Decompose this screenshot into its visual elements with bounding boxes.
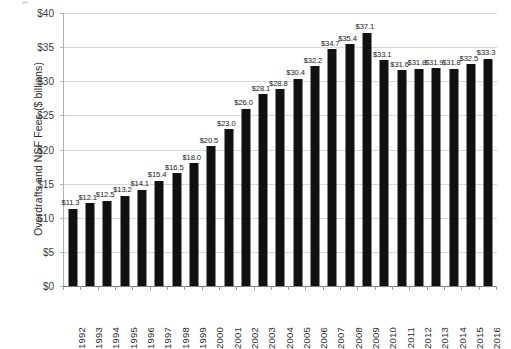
x-tick-label: 2009 (370, 327, 381, 349)
x-tick-mark (254, 286, 255, 290)
bar[interactable] (380, 60, 389, 286)
x-tick-label: 2003 (266, 327, 277, 349)
bar[interactable] (189, 163, 198, 286)
bar[interactable] (415, 69, 424, 286)
bar[interactable] (449, 69, 458, 286)
bar[interactable] (432, 68, 441, 286)
plot-area: $11.3$12.1$12.5$13.2$14.1$15.4$16.5$18.0… (63, 13, 497, 287)
y-tick-label: $15 (37, 178, 54, 189)
x-tick-label: 2000 (214, 327, 225, 349)
bar[interactable] (345, 44, 354, 286)
bar-value-label: $31.6 (390, 60, 409, 69)
bar-value-label: $13.2 (113, 185, 132, 194)
bar[interactable] (311, 66, 320, 286)
bar[interactable] (467, 64, 476, 286)
x-tick-mark (409, 286, 410, 290)
bar-value-label: $35.4 (338, 34, 357, 43)
x-tick-label: 2013 (439, 327, 450, 349)
bar-group: $31.6 (393, 13, 410, 286)
bar[interactable] (224, 129, 233, 286)
bar-group: $20.5 (203, 13, 220, 286)
y-tick-label: $40 (37, 8, 54, 19)
x-tick-mark (288, 286, 289, 290)
bar-value-label: $12.1 (78, 193, 97, 202)
x-tick-mark (375, 286, 376, 290)
x-tick-label: 2011 (405, 327, 416, 348)
bar[interactable] (484, 59, 493, 286)
y-tick-label: $0 (43, 281, 54, 292)
bar-group: $28.1 (255, 13, 272, 286)
bar[interactable] (120, 196, 129, 286)
bar-group: $34.7 (324, 13, 341, 286)
bar-group: $11.3 (64, 13, 81, 286)
bar-group: $35.4 (341, 13, 358, 286)
x-tick-label: 2001 (232, 327, 243, 349)
x-tick-mark (479, 286, 480, 290)
bar-group: $31.9 (428, 13, 445, 286)
x-tick-label: 1998 (180, 327, 191, 349)
x-tick-mark (305, 286, 306, 290)
x-tick-mark (496, 286, 497, 290)
bar-value-label: $20.5 (200, 136, 219, 145)
y-tick-label: $5 (43, 246, 54, 257)
bar-group: $14.1 (133, 13, 150, 286)
bar[interactable] (68, 209, 77, 286)
bar[interactable] (103, 201, 112, 286)
x-tick-label: 2005 (301, 327, 312, 349)
bar-value-label: $28.1 (252, 84, 271, 93)
x-tick-label: 2012 (422, 327, 433, 349)
bar-value-label: $32.5 (460, 54, 479, 63)
x-tick-label: 1999 (197, 327, 208, 349)
x-tick-label: 1993 (93, 327, 104, 349)
x-tick-mark (184, 286, 185, 290)
x-tick-mark (236, 286, 237, 290)
x-tick-label: 2006 (318, 327, 329, 349)
bar[interactable] (207, 146, 216, 286)
bar-group: $16.5 (168, 13, 185, 286)
x-tick-mark (132, 286, 133, 290)
y-tick-label: $25 (37, 110, 54, 121)
x-tick-mark (357, 286, 358, 290)
bar-value-label: $31.8 (408, 58, 427, 67)
bar-group: $33.3 (480, 13, 497, 286)
bar-group: $13.2 (116, 13, 133, 286)
x-tick-mark (427, 286, 428, 290)
bar[interactable] (328, 49, 337, 286)
x-tick-mark (63, 286, 64, 290)
x-tick-mark (219, 286, 220, 290)
bar[interactable] (172, 173, 181, 286)
bar[interactable] (397, 70, 406, 286)
bar[interactable] (293, 79, 302, 286)
bar-group: $28.8 (272, 13, 289, 286)
bar[interactable] (137, 190, 146, 286)
x-axis-tick-labels: 1992199319941995199619971998199920002001… (63, 291, 496, 331)
bar-group: $31.8 (410, 13, 427, 286)
bar[interactable] (259, 94, 268, 286)
bar[interactable] (276, 89, 285, 286)
bar[interactable] (363, 33, 372, 286)
bar-value-label: $15.4 (148, 170, 167, 179)
x-tick-mark (167, 286, 168, 290)
bar[interactable] (241, 109, 250, 286)
bar-group: $33.1 (376, 13, 393, 286)
x-tick-mark (202, 286, 203, 290)
x-tick-mark (98, 286, 99, 290)
bar-value-label: $12.5 (96, 190, 115, 199)
bar[interactable] (85, 203, 94, 286)
x-tick-label: 1992 (76, 327, 87, 349)
bar[interactable] (155, 181, 164, 286)
x-tick-mark (340, 286, 341, 290)
bar-group: $32.2 (306, 13, 323, 286)
bar-value-label: $33.1 (373, 50, 392, 59)
x-tick-mark (80, 286, 81, 290)
bar-group: $18.0 (185, 13, 202, 286)
bar-group: $30.4 (289, 13, 306, 286)
x-tick-label: 2008 (353, 327, 364, 349)
bar-value-label: $18.0 (182, 153, 201, 162)
bar-value-label: $16.5 (165, 163, 184, 172)
bar-value-label: $37.1 (356, 22, 375, 31)
x-tick-label: 2016 (491, 327, 502, 349)
bar-value-label: $28.8 (269, 79, 288, 88)
bar-value-label: $30.4 (286, 68, 305, 77)
bar-value-label: $31.9 (425, 58, 444, 67)
